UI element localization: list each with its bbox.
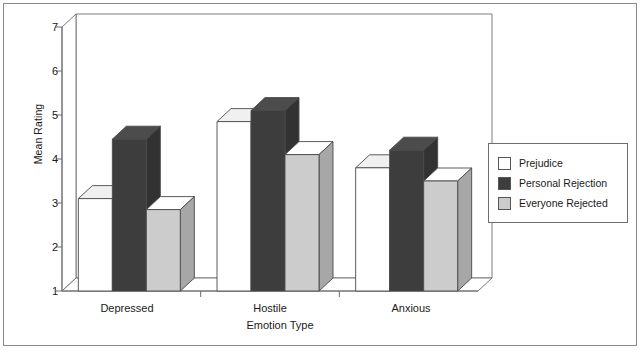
x-category-label-depressed: Depressed <box>57 302 197 314</box>
bar-anxious-everyone-rejected-front <box>424 181 458 291</box>
bar-hostile-everyone-rejected-front <box>285 155 319 291</box>
legend-swatch-prejudice <box>498 157 511 170</box>
bar-anxious-prejudice-front <box>356 168 390 291</box>
bar-depressed-everyone-rejected-side <box>180 197 194 291</box>
bar-depressed-everyone-rejected-front <box>146 210 180 291</box>
y-tick-label-1: 1 <box>38 285 58 297</box>
bar-depressed-personal-rejection-front <box>112 139 146 291</box>
plot-left-wall <box>62 14 76 291</box>
chart-render <box>56 14 492 297</box>
legend-swatch-everyone-rejected <box>498 197 511 210</box>
legend: Prejudice Personal Rejection Everyone Re… <box>488 143 628 223</box>
legend-label-personal-rejection: Personal Rejection <box>519 178 607 189</box>
legend-label-everyone-rejected: Everyone Rejected <box>519 198 608 209</box>
chart-page: 7 6 5 4 3 2 1 Mean Rating Emotion Type D… <box>0 0 642 351</box>
legend-item-personal-rejection: Personal Rejection <box>498 173 617 193</box>
x-category-label-hostile: Hostile <box>200 302 340 314</box>
y-tick-label-2: 2 <box>38 241 58 253</box>
x-category-label-anxious: Anxious <box>341 302 481 314</box>
bar-hostile-personal-rejection-front <box>251 111 285 291</box>
x-axis-title: Emotion Type <box>200 319 360 331</box>
legend-swatch-personal-rejection <box>498 177 511 190</box>
y-tick-label-7: 7 <box>38 21 58 33</box>
legend-item-everyone-rejected: Everyone Rejected <box>498 193 617 213</box>
legend-label-prejudice: Prejudice <box>519 158 563 169</box>
bar-depressed-prejudice-front <box>78 199 112 291</box>
y-axis-title: Mean Rating <box>32 74 44 194</box>
bar-anxious-personal-rejection-front <box>390 150 424 291</box>
y-tick-label-3: 3 <box>38 197 58 209</box>
bar-hostile-prejudice-front <box>217 122 251 291</box>
bar-hostile-everyone-rejected-side <box>319 142 333 291</box>
bar-anxious-everyone-rejected-side <box>458 168 472 291</box>
legend-item-prejudice: Prejudice <box>498 153 617 173</box>
